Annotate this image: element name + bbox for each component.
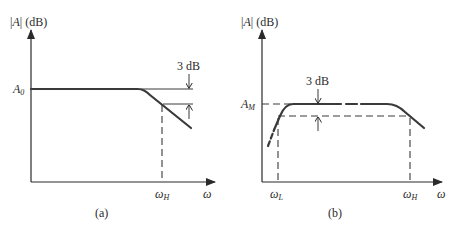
panel-a-lowpass: |A| (dB) A0 3 dB ωH ω (a) xyxy=(10,15,215,220)
frequency-response-figure: |A| (dB) A0 3 dB ωH ω (a) |A| (dB) AM xyxy=(0,0,458,228)
caption-b: (b) xyxy=(328,206,342,220)
x-axis-label-b: ω xyxy=(437,187,445,201)
y-axis-label-a: |A| (dB) xyxy=(10,15,47,29)
cutoff-label-wh-b: ωH xyxy=(403,187,418,202)
response-curve-b-left xyxy=(274,104,341,130)
panel-b-bandpass: |A| (dB) AM 3 dB ωL ωH ω (b) xyxy=(240,15,445,220)
y-axis-label-b: |A| (dB) xyxy=(241,15,278,29)
level-label-a0: A0 xyxy=(12,82,24,97)
level-label-am: AM xyxy=(240,97,256,112)
caption-a: (a) xyxy=(95,206,108,220)
cutoff-label-wh-a: ωH xyxy=(155,187,170,202)
cutoff-label-wl-b: ωL xyxy=(270,187,283,202)
3db-annotation-a: 3 dB xyxy=(177,59,200,73)
response-curve-a xyxy=(31,89,191,128)
3db-annotation-b: 3 dB xyxy=(306,74,329,88)
response-curve-b-extension xyxy=(268,130,274,146)
x-axis-label-a: ω xyxy=(203,187,211,201)
